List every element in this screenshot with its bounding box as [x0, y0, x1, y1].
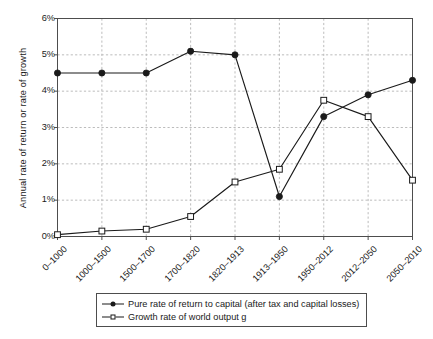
- axis-frame: [54, 19, 413, 241]
- filled-circle-marker-icon: [102, 299, 124, 309]
- legend-item-return: Pure rate of return to capital (after ta…: [102, 297, 359, 310]
- open-square-marker-icon: [102, 312, 124, 322]
- chart-legend: Pure rate of return to capital (after ta…: [96, 293, 367, 327]
- legend-label-growth: Growth rate of world output g: [128, 312, 246, 322]
- plot-area: [0, 0, 433, 339]
- legend-label-return: Pure rate of return to capital (after ta…: [128, 299, 359, 309]
- legend-item-growth: Growth rate of world output g: [102, 310, 359, 323]
- grid-lines: [58, 19, 413, 237]
- chart-figure: Annual rate of return or rate of growth …: [0, 0, 433, 339]
